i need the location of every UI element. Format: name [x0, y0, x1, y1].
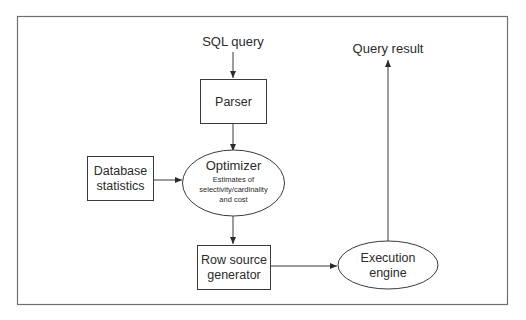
- query-result-label: Query result: [353, 41, 424, 56]
- optimizer-title: Optimizer: [206, 158, 262, 173]
- sql-query-label: SQL query: [202, 34, 264, 49]
- database-statistics-line2: statistics: [97, 179, 145, 193]
- execution-engine-ellipse: [338, 241, 438, 289]
- execution-line1: Execution: [361, 251, 416, 265]
- parser-label: Parser: [215, 95, 252, 109]
- database-statistics-line1: Database: [94, 164, 148, 178]
- row-source-line1: Row source: [201, 253, 267, 267]
- optimizer-line1: Estimates of: [213, 175, 255, 184]
- execution-line2: engine: [369, 266, 407, 280]
- optimizer-line2: selectivity/cardinality: [199, 185, 268, 194]
- optimizer-line3: and cost: [219, 195, 248, 204]
- row-source-line2: generator: [207, 268, 261, 282]
- diagram-canvas: SQL query Parser Database statistics Opt…: [0, 0, 526, 320]
